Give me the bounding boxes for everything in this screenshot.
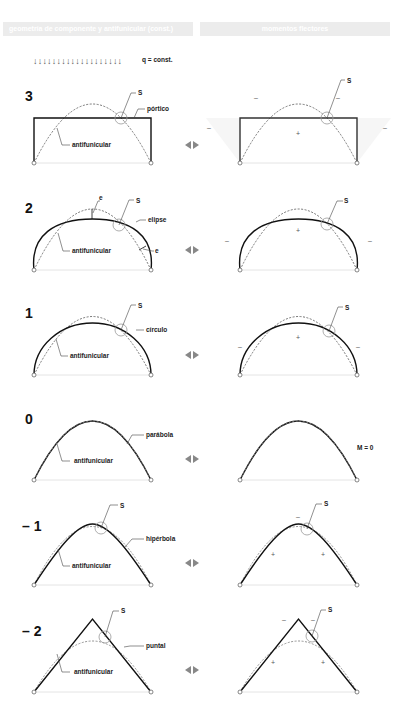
svg-text:+: + (321, 551, 325, 558)
svg-text:e: e (155, 247, 159, 254)
section-1-right: S + – – (238, 304, 360, 377)
svg-text:antifunicular: antifunicular (72, 247, 111, 254)
svg-text:S: S (344, 197, 349, 204)
section-0-left: antifunicular parábola (32, 421, 173, 482)
svg-text:–: – (238, 343, 242, 350)
svg-text:S: S (136, 197, 141, 204)
compare-arrows-icon (185, 455, 199, 463)
compare-arrows-icon (185, 351, 199, 359)
section-2-left: e S elipse e antifunicular (32, 194, 167, 272)
svg-text:hipérbola: hipérbola (146, 535, 176, 543)
svg-text:+: + (271, 659, 275, 666)
svg-text:antifunicular: antifunicular (74, 457, 113, 464)
svg-text:S: S (328, 606, 333, 613)
svg-text:antifunicular: antifunicular (70, 352, 109, 359)
svg-text:S: S (121, 607, 126, 614)
m-zero-label: M = 0 (357, 444, 374, 451)
svg-text:–: – (225, 237, 229, 244)
svg-text:–: – (368, 237, 372, 244)
svg-text:–: – (356, 343, 360, 350)
section-minus-2-left: S puntal antifunicular (32, 607, 166, 694)
svg-text:–: – (282, 616, 286, 623)
compare-arrows-icon (185, 666, 199, 674)
svg-text:+: + (296, 227, 300, 234)
section-minus-1-left: S hipérbola antifunicular (32, 502, 176, 587)
svg-text:–: – (254, 94, 258, 101)
svg-text:e: e (99, 194, 103, 201)
compare-arrows-icon (185, 141, 199, 149)
svg-text:+: + (321, 659, 325, 666)
section-3-right: S – – – – + (206, 77, 391, 165)
svg-text:–: – (207, 124, 211, 131)
svg-text:S: S (120, 502, 125, 509)
svg-text:puntal: puntal (146, 642, 166, 650)
section-3-left: S pórtico antifunicular (32, 89, 169, 165)
compare-arrows-icon (185, 246, 199, 254)
svg-text:+: + (296, 334, 300, 341)
svg-text:S: S (345, 304, 350, 311)
svg-text:–: – (383, 124, 387, 131)
section-minus-1-right: S – + + (238, 500, 359, 587)
section-minus-2-right: S – – + + (238, 606, 359, 694)
section-0-right: M = 0 (238, 421, 374, 482)
svg-text:S: S (138, 302, 143, 309)
s-label: S (138, 89, 143, 96)
svg-text:–: – (311, 616, 315, 623)
svg-text:parábola: parábola (146, 431, 173, 439)
section-2-right: S + – – (225, 197, 372, 272)
svg-text:+: + (296, 130, 300, 137)
svg-text:–: – (296, 513, 300, 520)
diagram-canvas: S pórtico antifunicular S – – – – + e S (0, 0, 393, 703)
compare-arrows-icon (185, 559, 199, 567)
svg-text:+: + (271, 551, 275, 558)
svg-text:–: – (336, 94, 340, 101)
svg-text:antifunicular: antifunicular (72, 562, 111, 569)
svg-text:S: S (324, 500, 329, 507)
portico-label: pórtico (147, 105, 169, 113)
svg-text:S: S (347, 77, 352, 84)
svg-text:círculo: círculo (146, 326, 167, 333)
antifunicular-label: antifunicular (72, 141, 111, 148)
svg-text:elipse: elipse (148, 216, 167, 224)
svg-text:antifunicular: antifunicular (74, 668, 113, 675)
section-1-left: S círculo antifunicular (32, 302, 167, 377)
